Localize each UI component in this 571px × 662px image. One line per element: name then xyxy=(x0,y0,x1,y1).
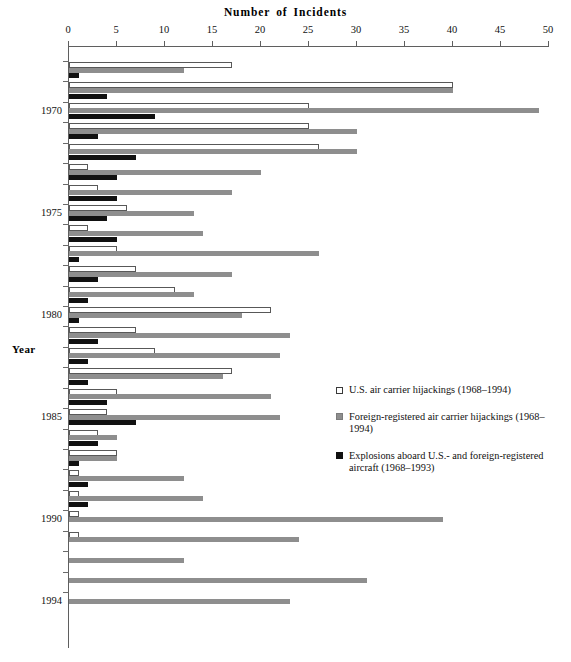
y-tick-mark-1987 xyxy=(63,449,69,450)
y-tick-label-wrap-1975: 1975 xyxy=(18,207,62,219)
x-tick-mark-45 xyxy=(500,41,501,47)
bar-foreign-hijackings-1985 xyxy=(69,415,280,420)
bar-explosions-1986 xyxy=(69,441,98,446)
bar-explosions-1987 xyxy=(69,461,79,466)
y-tick-mark-1973 xyxy=(63,163,69,164)
incidents-bar-chart: NumberofIncidents 05101520253035404550 Y… xyxy=(0,0,571,662)
legend-item-explosions: Explosions aboard U.S.- and foreign-regi… xyxy=(336,450,568,475)
bar-foreign-hijackings-1968 xyxy=(69,68,184,73)
y-tick-mark-1981 xyxy=(63,326,69,327)
legend-item-explosions-label-line2: aircraft (1968–1993) xyxy=(349,462,568,475)
y-tick-mark-1982 xyxy=(63,347,69,348)
x-tick-mark-0 xyxy=(68,41,69,47)
y-tick-mark-1991 xyxy=(63,531,69,532)
y-tick-label-1994: 1994 xyxy=(20,595,62,606)
bar-foreign-hijackings-1972 xyxy=(69,149,357,154)
legend-item-us-label: U.S. air carrier hijackings (1968–1994) xyxy=(349,384,511,395)
bar-explosions-1969 xyxy=(69,94,107,99)
bar-explosions-1975 xyxy=(69,216,107,221)
x-tick-mark-20 xyxy=(260,41,261,47)
bar-foreign-hijackings-1987 xyxy=(69,456,117,461)
bar-foreign-hijackings-1976 xyxy=(69,231,203,236)
bar-foreign-hijackings-1984 xyxy=(69,394,271,399)
bar-foreign-hijackings-1989 xyxy=(69,496,203,501)
bar-foreign-hijackings-1980 xyxy=(69,313,242,318)
x-tick-mark-40 xyxy=(452,41,453,47)
y-tick-mark-1989 xyxy=(63,490,69,491)
y-tick-mark-1979 xyxy=(63,286,69,287)
y-tick-mark-1969 xyxy=(63,81,69,82)
bar-foreign-hijackings-1977 xyxy=(69,251,319,256)
x-tick-mark-15 xyxy=(212,41,213,47)
gray-square-swatch-icon xyxy=(336,413,343,420)
bar-foreign-hijackings-1975 xyxy=(69,211,194,216)
y-tick-mark-1977 xyxy=(63,245,69,246)
y-tick-label-wrap-1970: 1970 xyxy=(18,105,62,117)
y-tick-mark-1985 xyxy=(63,408,69,409)
x-tick-mark-50 xyxy=(548,41,549,47)
y-tick-mark-1980 xyxy=(63,306,69,307)
bar-explosions-1973 xyxy=(69,175,117,180)
bar-foreign-hijackings-1986 xyxy=(69,435,117,440)
y-tick-label-1975: 1975 xyxy=(20,207,62,218)
x-tick-mark-25 xyxy=(308,41,309,47)
bar-explosions-1977 xyxy=(69,257,79,262)
y-tick-label-wrap-1990: 1990 xyxy=(18,513,62,525)
bar-explosions-1971 xyxy=(69,134,98,139)
y-tick-label-1990: 1990 xyxy=(20,513,62,524)
y-tick-label-1970: 1970 xyxy=(20,105,62,116)
y-tick-mark-1972 xyxy=(63,143,69,144)
bar-foreign-hijackings-1988 xyxy=(69,476,184,481)
y-tick-mark-1976 xyxy=(63,224,69,225)
bar-explosions-1976 xyxy=(69,237,117,242)
y-tick-mark-1970 xyxy=(63,102,69,103)
bar-explosions-1978 xyxy=(69,277,98,282)
y-tick-label-1985: 1985 xyxy=(20,411,62,422)
y-tick-mark-1990 xyxy=(63,510,69,511)
bar-foreign-hijackings-1974 xyxy=(69,190,232,195)
y-tick-mark-1992 xyxy=(63,551,69,552)
y-tick-mark-1968 xyxy=(63,61,69,62)
y-tick-mark-1975 xyxy=(63,204,69,205)
bar-explosions-1980 xyxy=(69,318,79,323)
bar-explosions-1985 xyxy=(69,420,136,425)
y-tick-label-1980: 1980 xyxy=(20,309,62,320)
bar-foreign-hijackings-1990 xyxy=(69,517,443,522)
bar-explosions-1981 xyxy=(69,339,98,344)
legend-item-explosions-label: Explosions aboard U.S.- and foreign-regi… xyxy=(349,450,543,461)
y-tick-mark-1978 xyxy=(63,265,69,266)
chart-legend: U.S. air carrier hijackings (1968–1994) … xyxy=(336,384,568,489)
bar-foreign-hijackings-1969 xyxy=(69,88,453,93)
bar-foreign-hijackings-1991 xyxy=(69,537,299,542)
legend-item-foreign: Foreign-registered air carrier hijacking… xyxy=(336,411,568,436)
bar-explosions-1984 xyxy=(69,400,107,405)
y-tick-mark-1984 xyxy=(63,388,69,389)
y-tick-mark-1994 xyxy=(63,592,69,593)
bar-foreign-hijackings-1978 xyxy=(69,272,232,277)
plot-area: 197019751980198519901994 xyxy=(0,0,571,662)
bar-foreign-hijackings-1979 xyxy=(69,292,194,297)
bar-foreign-hijackings-1981 xyxy=(69,333,290,338)
bar-explosions-1988 xyxy=(69,482,88,487)
y-tick-mark-1983 xyxy=(63,367,69,368)
bar-foreign-hijackings-1970 xyxy=(69,108,539,113)
x-tick-mark-35 xyxy=(404,41,405,47)
y-tick-label-wrap-1994: 1994 xyxy=(18,595,62,607)
legend-item-us: U.S. air carrier hijackings (1968–1994) xyxy=(336,384,568,397)
bar-explosions-1970 xyxy=(69,114,155,119)
bar-explosions-1982 xyxy=(69,359,88,364)
y-tick-mark-1986 xyxy=(63,429,69,430)
black-square-swatch-icon xyxy=(336,452,343,459)
y-tick-mark-1971 xyxy=(63,122,69,123)
bar-explosions-1974 xyxy=(69,196,117,201)
bar-explosions-1989 xyxy=(69,502,88,507)
bar-foreign-hijackings-1992 xyxy=(69,558,184,563)
white-square-swatch-icon xyxy=(336,387,343,394)
x-tick-mark-10 xyxy=(164,41,165,47)
bar-explosions-1972 xyxy=(69,155,136,160)
x-tick-mark-30 xyxy=(356,41,357,47)
x-tick-mark-5 xyxy=(116,41,117,47)
bar-foreign-hijackings-1982 xyxy=(69,353,280,358)
y-tick-mark-1993 xyxy=(63,572,69,573)
y-tick-label-wrap-1980: 1980 xyxy=(18,309,62,321)
